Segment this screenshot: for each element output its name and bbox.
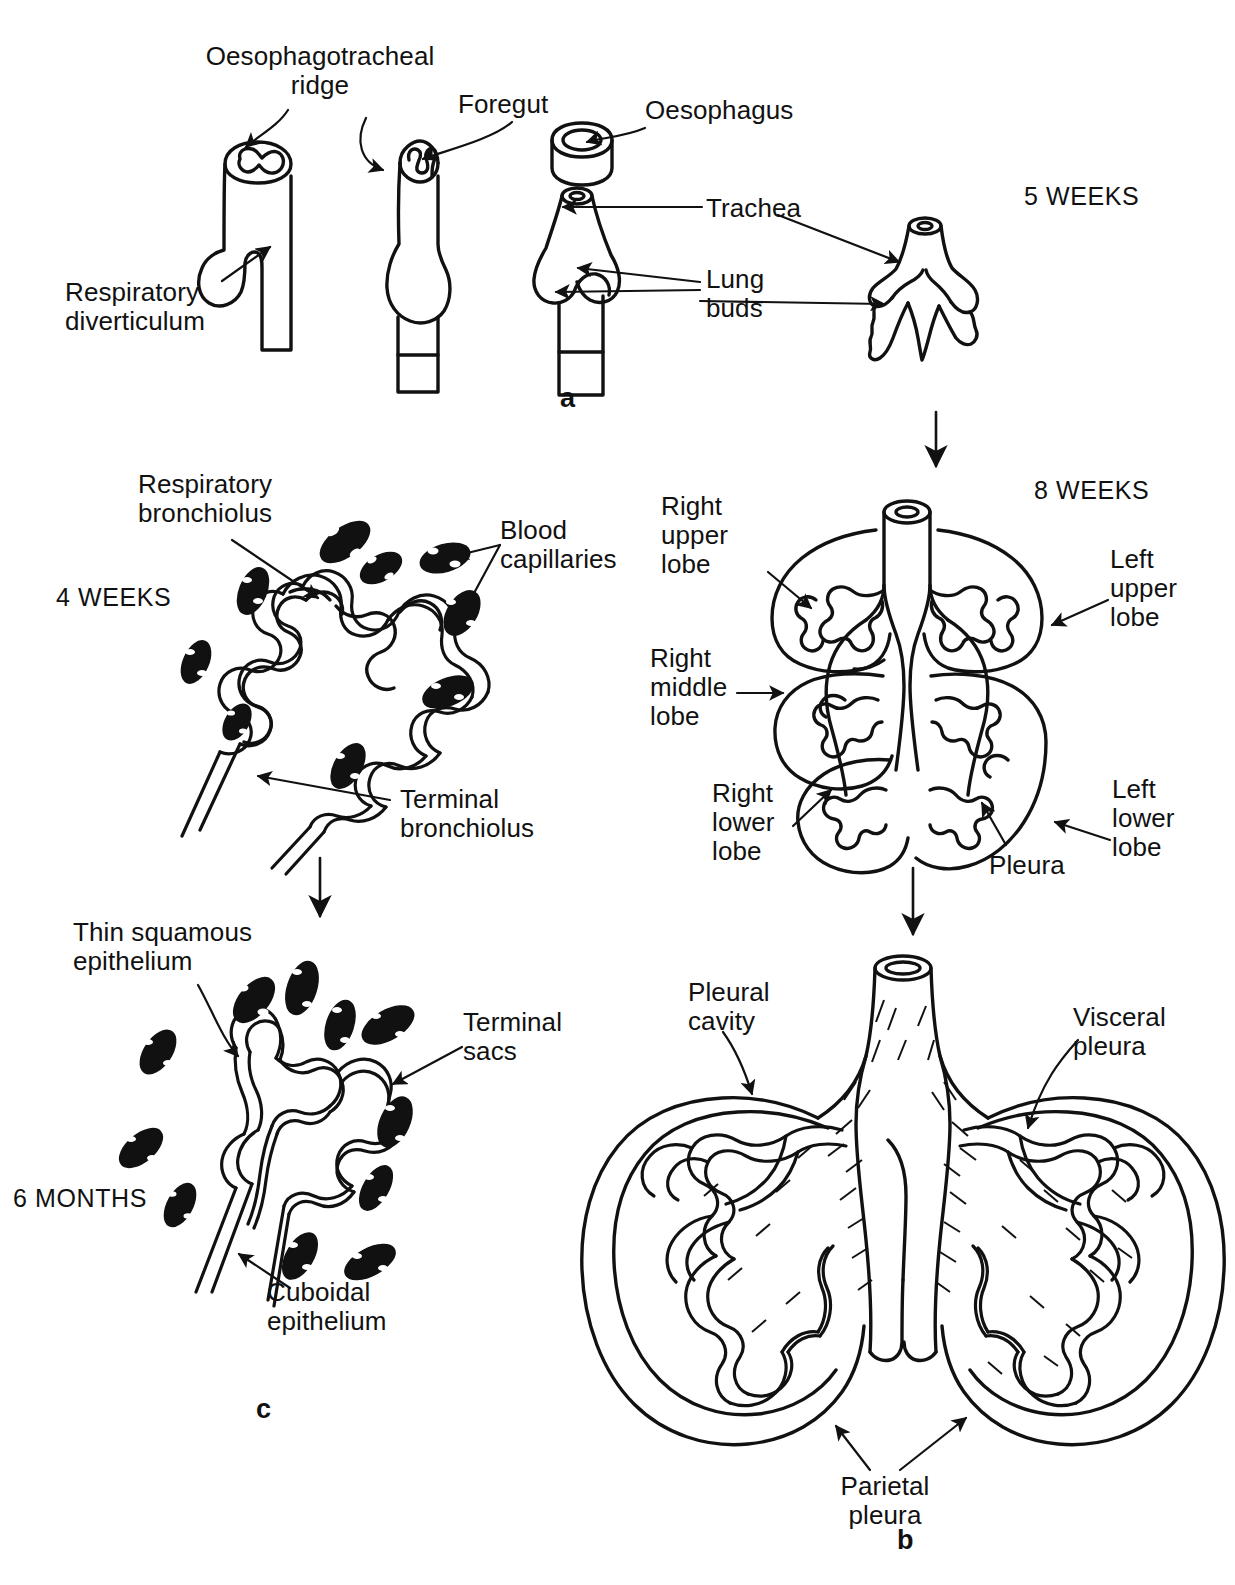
- label-blood-capillaries: Blood capillaries: [500, 516, 617, 574]
- leader-pleura: [982, 803, 1006, 845]
- label-parietal-pleura: Parietal pleura: [790, 1472, 980, 1530]
- leader-blood-capillaries-2: [466, 545, 500, 608]
- panel-a-tube-1: [199, 142, 291, 350]
- leader-thin-squamous-epithelium: [198, 985, 238, 1056]
- leader-oesophagus: [587, 128, 645, 142]
- panel-a-tube-3: [534, 123, 620, 395]
- label-right-middle-lobe: Right middle lobe: [650, 644, 727, 731]
- label-terminal-bronchiolus: Terminal bronchiolus: [400, 785, 534, 843]
- label-pleura: Pleura: [989, 851, 1065, 880]
- leader-lung-buds-1: [578, 268, 700, 282]
- label-terminal-sacs: Terminal sacs: [463, 1008, 562, 1066]
- figure-canvas: Oesophagotracheal ridge Foregut Oesophag…: [0, 0, 1235, 1585]
- leader-pleural-cavity: [723, 1032, 752, 1094]
- leader-blood-capillaries-1: [455, 545, 500, 556]
- six-months-terminal-sacs: [113, 958, 419, 1306]
- leader-terminal-bronchiolus: [258, 776, 390, 800]
- leader-lung-buds-2: [556, 290, 700, 292]
- leader-right-upper-lobe: [768, 572, 811, 608]
- label-thin-squamous-epithelium: Thin squamous epithelium: [73, 918, 252, 976]
- label-oesophagus: Oesophagus: [645, 96, 793, 125]
- stage-label-4-weeks: 4 WEEKS: [56, 583, 171, 612]
- figure-line-art: [0, 0, 1235, 1585]
- label-lung-buds: Lung buds: [706, 265, 764, 323]
- label-foregut: Foregut: [458, 90, 548, 119]
- leader-respiratory-diverticulum: [222, 247, 270, 281]
- label-pleural-cavity: Pleural cavity: [688, 978, 770, 1036]
- label-right-lower-lobe: Right lower lobe: [712, 779, 775, 866]
- leader-terminal-sacs: [393, 1047, 462, 1084]
- label-trachea: Trachea: [706, 194, 801, 223]
- label-cuboidal-epithelium: Cuboidal epithelium: [267, 1278, 387, 1336]
- label-left-upper-lobe: Left upper lobe: [1110, 545, 1177, 632]
- leader-respiratory-bronchiolus: [232, 540, 318, 598]
- label-respiratory-bronchiolus: Respiratory bronchiolus: [138, 470, 272, 528]
- leader-left-lower-lobe: [1055, 822, 1110, 840]
- leader-oesophagotracheal-ridge-2: [360, 118, 383, 170]
- panel-letter-b: b: [897, 1525, 914, 1556]
- label-visceral-pleura: Visceral pleura: [1073, 1003, 1166, 1061]
- leader-oesophagotracheal-ridge: [246, 110, 288, 147]
- leader-visceral-pleura: [1028, 1040, 1078, 1128]
- leader-left-upper-lobe: [1052, 600, 1108, 625]
- panel-a-tube-4: [869, 218, 977, 360]
- leader-foregut: [423, 122, 512, 159]
- panel-letter-c: c: [256, 1394, 271, 1425]
- label-oesophagotracheal-ridge: Oesophagotracheal ridge: [205, 42, 435, 100]
- leader-right-lower-lobe: [793, 790, 831, 826]
- label-respiratory-diverticulum: Respiratory diverticulum: [65, 278, 205, 336]
- eight-weeks-lung: [772, 501, 1046, 873]
- label-left-lower-lobe: Left lower lobe: [1112, 775, 1175, 862]
- stage-label-6-months: 6 MONTHS: [13, 1184, 147, 1213]
- stage-label-5-weeks: 5 WEEKS: [1024, 182, 1139, 211]
- leader-parietal-pleura-left: [836, 1426, 870, 1470]
- stage-label-8-weeks: 8 WEEKS: [1034, 476, 1149, 505]
- panel-a-tube-2: [387, 141, 450, 392]
- panel-letter-a: a: [560, 383, 575, 414]
- label-right-upper-lobe: Right upper lobe: [661, 492, 728, 579]
- leader-parietal-pleura-right: [900, 1418, 966, 1470]
